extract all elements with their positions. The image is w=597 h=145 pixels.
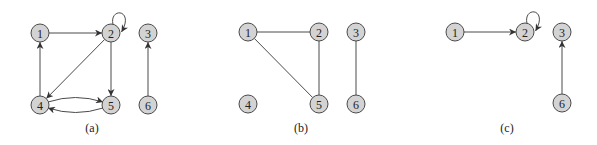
graph-figure: 123456(a) 123456(b) 1236(c) [0,0,597,145]
node-2: 2 [310,23,328,41]
node-label: 4 [245,98,251,112]
node-1: 1 [31,24,49,42]
graph-panel-a: 123456(a) [31,13,157,135]
node-6: 6 [139,96,157,114]
node-label: 6 [353,98,359,112]
edge-1-5 [254,38,312,97]
edges [464,12,562,94]
panel-caption: (c) [500,121,513,135]
graph-panel-b: 123456(b) [239,23,365,135]
node-2: 2 [516,23,534,41]
node-4: 4 [31,96,49,114]
graph-panel-c: 1236(c) [446,12,571,135]
node-6: 6 [553,94,571,112]
node-5: 5 [102,96,120,114]
node-label: 2 [108,27,114,41]
node-label: 4 [37,99,43,113]
panel-caption: (b) [294,121,308,135]
edge-2-4 [46,39,104,98]
node-1: 1 [239,23,257,41]
node-5: 5 [310,95,328,113]
node-6: 6 [347,95,365,113]
node-2: 2 [102,24,120,42]
node-label: 2 [522,26,528,40]
node-label: 2 [316,26,322,40]
node-label: 5 [316,98,322,112]
node-label: 3 [353,26,359,40]
node-label: 6 [145,99,151,113]
nodes: 1236 [446,23,571,112]
node-label: 3 [145,27,151,41]
edge-4-5 [48,98,103,103]
node-3: 3 [347,23,365,41]
panel-caption: (a) [85,121,98,135]
node-label: 6 [559,97,565,111]
node-1: 1 [446,23,464,41]
edge-5-4 [48,108,103,113]
node-4: 4 [239,95,257,113]
node-label: 3 [559,26,565,40]
node-label: 1 [37,27,43,41]
edges [40,13,148,113]
edges [254,32,356,98]
node-label: 1 [245,26,251,40]
node-3: 3 [553,23,571,41]
node-3: 3 [139,24,157,42]
nodes: 123456 [31,24,157,114]
node-label: 1 [452,26,458,40]
node-label: 5 [108,99,114,113]
nodes: 123456 [239,23,365,113]
